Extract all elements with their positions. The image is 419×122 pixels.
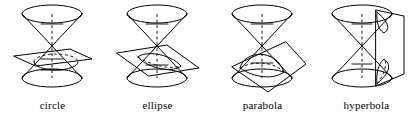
- panel-parabola: parabola: [210, 0, 315, 122]
- panel-label-ellipse: ellipse: [105, 98, 210, 112]
- panel-label-hyperbola: hyperbola: [314, 98, 419, 112]
- panel-ellipse: ellipse: [105, 0, 210, 122]
- panel-hyperbola: hyperbola: [314, 0, 419, 122]
- double-cone-parallel-plane-diagram: [210, 2, 315, 96]
- panel-label-parabola: parabola: [210, 98, 315, 112]
- conic-sections-figure: circle ellipse: [0, 0, 419, 122]
- double-cone-tilted-plane-diagram: [105, 2, 210, 96]
- panel-label-circle: circle: [0, 98, 105, 112]
- double-cone-horizontal-plane-diagram: [0, 2, 105, 96]
- double-cone-vertical-plane-diagram: [314, 2, 419, 96]
- panel-circle: circle: [0, 0, 105, 122]
